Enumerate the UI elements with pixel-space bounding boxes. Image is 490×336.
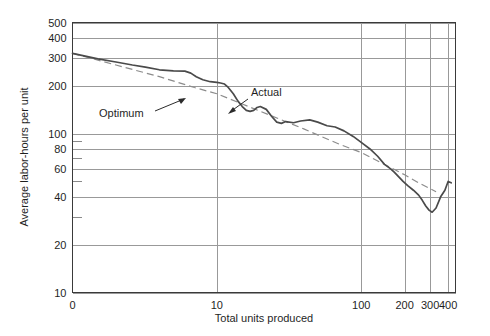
chart-background [0, 0, 490, 336]
annotation-optimum-label: Optimum [99, 107, 144, 119]
y-tick-label: 500 [48, 17, 66, 29]
y-tick-label: 20 [54, 239, 66, 251]
y-tick-label: 300 [48, 52, 66, 64]
annotation-actual-label: Actual [251, 86, 282, 98]
y-tick-label: 100 [48, 128, 66, 140]
x-axis-title: Total units produced [215, 312, 313, 324]
x-tick-label: 10 [211, 299, 223, 311]
x-tick-label: 0 [69, 299, 75, 311]
y-tick-label: 400 [48, 32, 66, 44]
y-tick-label: 60 [54, 163, 66, 175]
y-tick-label: 40 [54, 191, 66, 203]
y-tick-label: 10 [54, 287, 66, 299]
y-axis-title: Average labor-hours per unit [18, 87, 30, 226]
chart-figure: 5004003002001008060402010 01010020030040… [0, 0, 490, 336]
learning-curve-chart: 5004003002001008060402010 01010020030040… [0, 0, 490, 336]
x-tick-label: 100 [352, 299, 370, 311]
y-tick-label: 80 [54, 143, 66, 155]
y-tick-label: 200 [48, 80, 66, 92]
x-tick-label: 300 [421, 299, 439, 311]
x-tick-label: 400 [439, 299, 457, 311]
x-tick-label: 200 [395, 299, 413, 311]
